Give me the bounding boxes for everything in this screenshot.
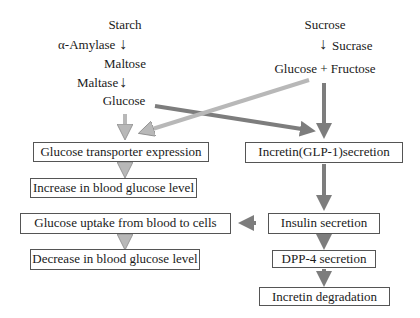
arrow-fructose-to-transporter (146, 80, 309, 131)
glucose-label: Glucose (103, 93, 146, 109)
increase-glucose-box: Increase in blood glucose level (30, 178, 197, 198)
down-arrow-icon: ↓ (119, 36, 127, 52)
insulin-secretion-box: Insulin secretion (268, 213, 380, 234)
amylase-label: α-Amylase (58, 37, 115, 53)
starch-label: Starch (108, 17, 141, 33)
glucose-uptake-box: Glucose uptake from blood to cells (20, 213, 231, 234)
decrease-glucose-box: Decrease in blood glucose level (30, 249, 200, 270)
down-arrow-icon: ↓ (119, 74, 127, 90)
maltase-label: Maltase (77, 75, 118, 91)
incretin-degradation-box: Incretin degradation (259, 287, 390, 306)
dpp4-secretion-box: DPP-4 secretion (272, 250, 376, 268)
sucrose-label: Sucrose (304, 17, 345, 33)
down-arrow-icon: ↓ (319, 36, 327, 52)
maltose-label: Maltose (104, 56, 146, 72)
metabolism-diagram: Starch α-Amylase ↓ Maltose Maltase ↓ Glu… (0, 0, 420, 318)
arrow-glucose-to-incretin (155, 106, 308, 130)
incretin-secretion-box: Incretin(GLP-1)secretion (245, 142, 403, 163)
glucose-transporter-box: Glucose transporter expression (33, 142, 209, 162)
sucrase-label: Sucrase (332, 38, 372, 54)
glucose-fructose-label: Glucose + Fructose (274, 61, 375, 77)
